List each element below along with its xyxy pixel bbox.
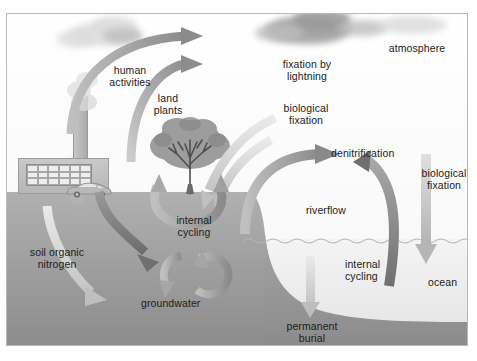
label-internal-cycling-ocean: internal cycling — [345, 258, 407, 282]
label-land-plants: land plants — [141, 92, 195, 116]
label-human-activities: human activities — [95, 64, 165, 88]
label-biological-fixation-land: biological fixation — [271, 102, 341, 126]
label-fixation-by-lightning: fixation by lightning — [267, 58, 347, 82]
denitrification-arrow — [245, 144, 339, 234]
label-ocean: ocean — [428, 276, 468, 288]
label-groundwater: groundwater — [141, 297, 231, 309]
internal-cycling-ocean-loop — [159, 250, 229, 298]
label-soil-organic-nitrogen: soil organic nitrogen — [15, 246, 99, 270]
riverflow-arrow — [99, 192, 159, 272]
nitrogen-cycle-figure: human activities land plants fixation by… — [0, 0, 477, 361]
permanent-burial-arrow — [301, 256, 320, 318]
label-internal-cycling-land: internal cycling — [165, 214, 223, 238]
flux-arrows — [7, 14, 468, 346]
label-atmosphere: atmosphere — [379, 42, 455, 54]
figure-frame: human activities land plants fixation by… — [6, 13, 468, 346]
label-riverflow: riverflow — [293, 204, 359, 216]
label-permanent-burial: permanent burial — [275, 320, 349, 344]
label-biological-fixation-ocean: biological fixation — [413, 167, 468, 191]
label-denitrification: denitrification — [331, 147, 421, 159]
